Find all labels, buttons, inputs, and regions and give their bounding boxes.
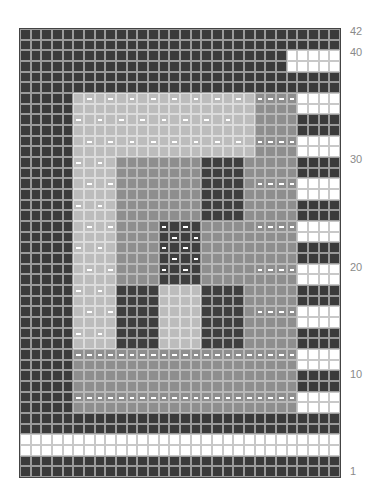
stitch-cell [276, 434, 287, 445]
stitch-cell [20, 274, 31, 285]
stitch-cell [148, 210, 159, 221]
stitch-cell [127, 200, 138, 211]
stitch-cell [41, 338, 52, 349]
stitch-cell [137, 285, 148, 296]
stitch-cell [255, 296, 266, 307]
stitch-cell [233, 349, 244, 360]
stitch-cell [265, 104, 276, 115]
stitch-cell [169, 306, 180, 317]
stitch-cell [159, 136, 170, 147]
stitch-cell [31, 285, 42, 296]
stitch-cell [201, 456, 212, 467]
stitch-cell [137, 264, 148, 275]
stitch-cell [105, 317, 116, 328]
stitch-cell [297, 125, 308, 136]
stitch-cell [233, 370, 244, 381]
stitch-cell [52, 168, 63, 179]
stitch-cell [73, 61, 84, 72]
stitch-cell [95, 114, 106, 125]
stitch-cell [255, 328, 266, 339]
stitch-cell [127, 253, 138, 264]
stitch-cell [255, 146, 266, 157]
stitch-cell [127, 114, 138, 125]
stitch-cell [159, 296, 170, 307]
stitch-cell [212, 189, 223, 200]
stitch-cell [116, 200, 127, 211]
stitch-cell [265, 317, 276, 328]
stitch-cell [169, 104, 180, 115]
stitch-cell [31, 72, 42, 83]
stitch-cell [308, 285, 319, 296]
stitch-cell [223, 349, 234, 360]
stitch-cell [127, 125, 138, 136]
stitch-cell [52, 381, 63, 392]
stitch-cell [63, 445, 74, 456]
stitch-cell [287, 61, 298, 72]
stitch-cell [159, 189, 170, 200]
stitch-cell [244, 456, 255, 467]
stitch-cell [137, 253, 148, 264]
stitch-cell [31, 402, 42, 413]
stitch-cell [191, 264, 202, 275]
stitch-cell [41, 50, 52, 61]
stitch-cell [276, 392, 287, 403]
stitch-cell [137, 157, 148, 168]
stitch-cell [276, 178, 287, 189]
stitch-cell [20, 168, 31, 179]
stitch-cell [191, 189, 202, 200]
stitch-cell [244, 424, 255, 435]
stitch-cell [127, 413, 138, 424]
stitch-cell [52, 232, 63, 243]
stitch-cell [319, 104, 330, 115]
stitch-cell [41, 29, 52, 40]
stitch-cell [297, 424, 308, 435]
stitch-cell [20, 424, 31, 435]
stitch-cell [265, 456, 276, 467]
stitch-cell [31, 413, 42, 424]
stitch-cell [73, 434, 84, 445]
stitch-cell [319, 114, 330, 125]
stitch-cell [31, 296, 42, 307]
stitch-cell [137, 242, 148, 253]
stitch-cell [191, 146, 202, 157]
stitch-cell [73, 285, 84, 296]
stitch-cell [137, 125, 148, 136]
stitch-cell [95, 29, 106, 40]
stitch-cell [201, 392, 212, 403]
stitch-cell [137, 221, 148, 232]
stitch-cell [223, 306, 234, 317]
stitch-cell [244, 317, 255, 328]
stitch-cell [127, 296, 138, 307]
stitch-cell [329, 104, 340, 115]
stitch-cell [319, 29, 330, 40]
stitch-cell [191, 424, 202, 435]
stitch-cell [191, 104, 202, 115]
stitch-cell [308, 200, 319, 211]
stitch-cell [52, 402, 63, 413]
stitch-cell [180, 50, 191, 61]
stitch-cell [20, 50, 31, 61]
stitch-cell [308, 338, 319, 349]
stitch-cell [308, 50, 319, 61]
stitch-cell [191, 445, 202, 456]
stitch-cell [244, 210, 255, 221]
stitch-cell [20, 104, 31, 115]
stitch-cell [319, 242, 330, 253]
stitch-cell [95, 232, 106, 243]
stitch-cell [116, 210, 127, 221]
stitch-cell [159, 285, 170, 296]
stitch-cell [127, 434, 138, 445]
stitch-cell [191, 413, 202, 424]
stitch-cell [319, 221, 330, 232]
stitch-cell [137, 456, 148, 467]
stitch-cell [319, 456, 330, 467]
stitch-cell [265, 189, 276, 200]
stitch-cell [319, 264, 330, 275]
stitch-cell [31, 82, 42, 93]
stitch-cell [212, 264, 223, 275]
stitch-cell [52, 392, 63, 403]
stitch-cell [95, 200, 106, 211]
stitch-cell [223, 317, 234, 328]
stitch-cell [31, 157, 42, 168]
stitch-cell [31, 466, 42, 477]
